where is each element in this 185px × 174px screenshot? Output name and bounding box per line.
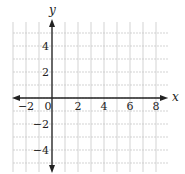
y-tick-label: 4 [42,40,49,53]
y-tick-label: −4 [33,144,49,157]
coordinate-plane: −202468 42−2−4 x y [0,0,185,174]
x-tick-label: −2 [18,100,34,113]
x-tick-label: 6 [127,100,134,113]
y-tick-label: 2 [42,66,49,79]
x-tick-label: 8 [153,100,160,113]
x-tick-label: 4 [101,100,108,113]
y-axis-arrow-up-icon [49,19,55,27]
x-axis-arrow-right-icon [160,95,168,101]
y-axis-label: y [48,3,56,17]
x-tick-label: 2 [75,100,82,113]
x-tick-label: 0 [45,100,52,113]
y-tick-label: −2 [33,118,49,131]
y-axis-arrow-down-icon [49,165,55,173]
x-axis-label: x [172,90,179,104]
